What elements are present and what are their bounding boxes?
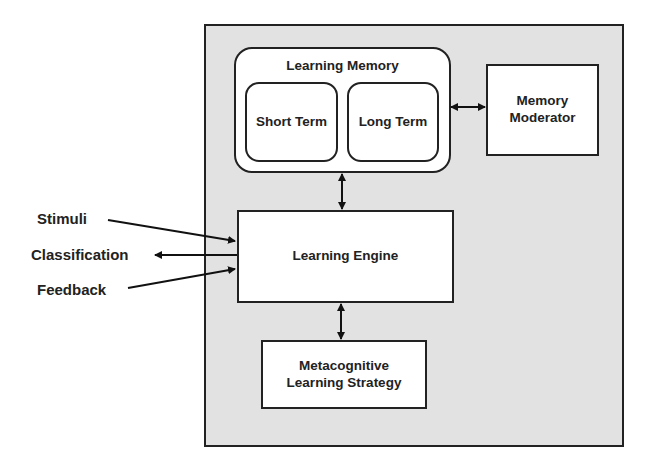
stimuli-arrow (108, 220, 235, 241)
connector-arrows (0, 0, 652, 465)
feedback-arrow (128, 269, 235, 288)
